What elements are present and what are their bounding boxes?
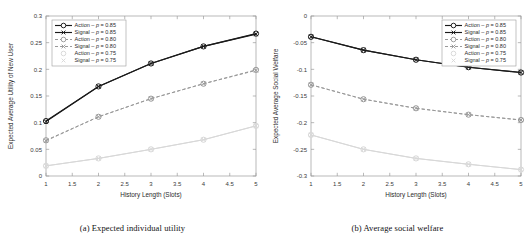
x-tick-label: 4.5	[491, 181, 500, 187]
legend-item[interactable]: Action – p = 0.80	[55, 36, 116, 42]
y-tick-label: 0.25	[30, 40, 42, 46]
y-tick-label: -0.25	[293, 147, 307, 153]
legend-item-label: Action – p = 0.75	[75, 50, 116, 56]
y-tick-label: 0.3	[34, 13, 43, 19]
x-tick-label: 2.5	[386, 181, 395, 187]
legend-item-label: Signal – p = 0.85	[75, 29, 116, 35]
legend-item-label: Action – p = 0.85	[465, 22, 506, 28]
legend-item-label: Signal – p = 0.80	[465, 43, 506, 49]
legend-item[interactable]: Action – p = 0.85	[445, 22, 506, 28]
y-tick-label: 0.15	[30, 93, 42, 99]
y-tick-label: 0.2	[34, 67, 43, 73]
x-tick-label: 2.5	[121, 181, 130, 187]
legend-item-label: Action – p = 0.80	[465, 36, 506, 42]
x-tick-label: 2	[97, 181, 101, 187]
y-axis-title: Expected Average Social Welfare	[272, 48, 280, 143]
y-tick-label: 0	[39, 173, 43, 179]
x-tick-label: 1	[309, 181, 313, 187]
x-tick-label: 4	[202, 181, 206, 187]
legend-item-label: Signal – p = 0.85	[465, 29, 506, 35]
x-axis-title: History Length (Slots)	[120, 191, 181, 199]
y-tick-label: 0.05	[30, 147, 42, 153]
legend-item-label: Signal – p = 0.75	[465, 57, 506, 63]
legend-item-label: Action – p = 0.80	[75, 36, 116, 42]
x-tick-label: 4	[467, 181, 471, 187]
x-tick-label: 1.5	[333, 181, 342, 187]
legend-marker-circle-icon	[451, 23, 456, 28]
y-tick-label: 0.1	[34, 120, 43, 126]
y-tick-label: -0.2	[297, 120, 308, 126]
legend-marker-circle-icon	[451, 51, 456, 56]
average-social-welfare-chart: 11.522.533.544.55-0.3-0.25-0.2-0.15-0.1-…	[265, 0, 530, 205]
chart-panel-b: 11.522.533.544.55-0.3-0.25-0.2-0.15-0.1-…	[265, 0, 530, 239]
legend-item-label: Signal – p = 0.80	[75, 43, 116, 49]
x-tick-label: 3.5	[173, 181, 182, 187]
x-axis-title: History Length (Slots)	[385, 191, 446, 199]
x-tick-label: 2	[362, 181, 366, 187]
legend-marker-circle-icon	[61, 23, 66, 28]
y-axis-title: Expected Average Utility of New User	[7, 42, 15, 149]
y-tick-label: 0	[304, 13, 308, 19]
legend-marker-circle-icon	[61, 37, 66, 42]
x-tick-label: 3.5	[438, 181, 447, 187]
legend-item-label: Action – p = 0.85	[75, 22, 116, 28]
legend-item-label: Action – p = 0.75	[465, 50, 506, 56]
legend-item[interactable]: Action – p = 0.85	[55, 22, 116, 28]
legend-marker-circle-icon	[61, 51, 66, 56]
y-tick-label: -0.05	[293, 40, 307, 46]
expected-individual-utility-chart: 11.522.533.544.5500.050.10.150.20.250.3H…	[0, 0, 265, 205]
x-tick-label: 3	[149, 181, 153, 187]
y-tick-label: -0.3	[297, 173, 308, 179]
x-tick-label: 5	[519, 181, 523, 187]
x-tick-label: 1.5	[68, 181, 77, 187]
y-tick-label: -0.1	[297, 67, 308, 73]
caption-panel-b: (b) Average social welfare	[265, 223, 530, 233]
figure-container: 11.522.533.544.5500.050.10.150.20.250.3H…	[0, 0, 530, 239]
y-tick-label: -0.15	[293, 93, 307, 99]
legend-item[interactable]: Action – p = 0.80	[445, 36, 506, 42]
chart-panel-a: 11.522.533.544.5500.050.10.150.20.250.3H…	[0, 0, 265, 239]
x-tick-label: 5	[254, 181, 258, 187]
legend-marker-circle-icon	[451, 37, 456, 42]
x-tick-label: 4.5	[226, 181, 235, 187]
x-tick-label: 3	[414, 181, 418, 187]
legend-item-label: Signal – p = 0.75	[75, 57, 116, 63]
caption-panel-a: (a) Expected individual utility	[0, 223, 265, 233]
x-tick-label: 1	[44, 181, 48, 187]
